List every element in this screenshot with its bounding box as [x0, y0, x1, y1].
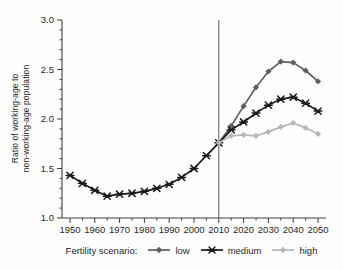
legend-item-low: low [147, 245, 189, 256]
data-point-medium [190, 165, 198, 171]
legend-label-high: high [299, 245, 317, 256]
x-tick-label: 2040 [283, 224, 304, 235]
y-axis-title-line2: non-working-age population [20, 40, 31, 198]
data-point-high [265, 129, 271, 135]
data-point-high [303, 125, 309, 131]
data-point-medium [314, 108, 322, 114]
line-chart-canvas: 1.01.52.02.53.01950196019701980199020002… [0, 0, 343, 240]
y-tick-label: 2.5 [41, 64, 54, 75]
legend-label-low: low [175, 245, 189, 256]
data-point-high [278, 124, 284, 130]
data-point-medium [91, 187, 99, 193]
y-axis-title-line1: Ratio of working-age to [10, 40, 21, 198]
data-point-medium [66, 172, 74, 178]
data-point-medium [302, 100, 310, 106]
data-point-medium [178, 174, 186, 180]
x-tick-label: 2030 [258, 224, 279, 235]
data-point-medium [79, 180, 87, 186]
x-tick-label: 1970 [109, 224, 130, 235]
data-point-medium [103, 193, 111, 199]
legend-title: Fertility scenario: [66, 245, 138, 256]
x-tick-label: 1990 [159, 224, 180, 235]
x-tick-label: 2010 [208, 224, 229, 235]
data-point-medium [116, 191, 124, 197]
x-tick-label: 2000 [183, 224, 204, 235]
data-point-medium [240, 119, 248, 125]
x-tick-label: 1950 [59, 224, 80, 235]
data-point-medium [203, 153, 211, 159]
data-point-medium [141, 188, 149, 194]
data-point-medium [265, 102, 273, 108]
y-tick-label: 1.5 [41, 163, 54, 174]
chart-figure: 1.01.52.02.53.01950196019701980199020002… [0, 0, 343, 269]
legend-marker-medium-icon [200, 245, 224, 255]
data-point-medium [289, 94, 297, 100]
y-tick-label: 2.0 [41, 113, 54, 124]
series-medium-markers [66, 94, 322, 199]
series-medium-line [70, 97, 318, 196]
x-tick-label: 1980 [134, 224, 155, 235]
data-point-high [253, 133, 259, 139]
x-tick-label: 2020 [233, 224, 254, 235]
y-tick-label: 1.0 [41, 212, 54, 223]
legend-item-medium: medium [200, 245, 262, 256]
y-axis-title: Ratio of working-age to non-working-age … [10, 40, 31, 198]
data-point-medium [252, 110, 260, 116]
y-tick-label: 3.0 [41, 14, 54, 25]
legend-marker-low-icon [147, 245, 171, 255]
data-point-high [241, 132, 247, 138]
data-point-medium [128, 190, 136, 196]
data-point-high [315, 131, 321, 137]
data-point-medium [165, 181, 173, 187]
legend-label-medium: medium [228, 245, 262, 256]
legend-item-high: high [271, 245, 317, 256]
legend: Fertility scenario: low medium high [0, 240, 343, 260]
x-tick-label: 2050 [307, 224, 328, 235]
legend-marker-high-icon [271, 245, 295, 255]
data-point-medium [277, 96, 285, 102]
x-tick-label: 1960 [84, 224, 105, 235]
data-point-medium [153, 185, 161, 191]
data-point-high [290, 120, 296, 126]
